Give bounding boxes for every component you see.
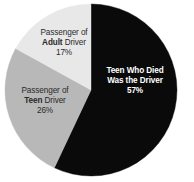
pie-chart-figure: Teen Who Died Was the Driver 57% Passeng…: [0, 0, 194, 182]
pie-slice-group: [5, 4, 177, 176]
pie-chart-canvas: [0, 0, 194, 182]
